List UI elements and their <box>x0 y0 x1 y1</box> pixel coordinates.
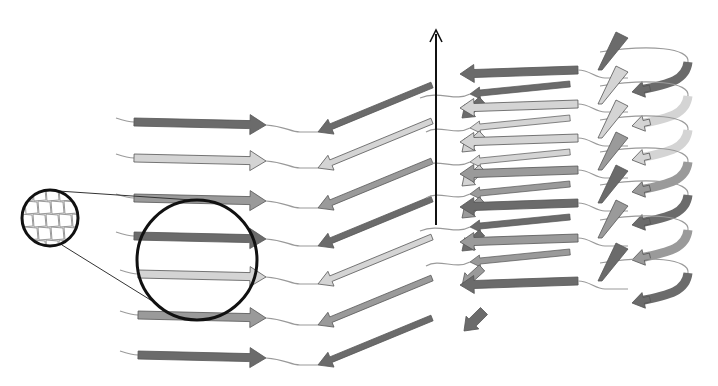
inner-strand-arrow <box>470 81 570 99</box>
strand-row <box>120 315 433 367</box>
inner-strand-arrow <box>470 214 570 232</box>
beta-sheet-illustration <box>0 0 718 386</box>
spike-strand <box>598 200 628 238</box>
spike-strand <box>598 100 628 138</box>
beta-strand-right-arrow <box>134 229 266 249</box>
beta-strand-right-arrow <box>134 115 266 135</box>
magnified-inset <box>20 188 257 320</box>
beta-strand-diagonal-arrow <box>318 315 433 367</box>
spike-strand <box>598 243 628 281</box>
inner-strand-arrow <box>470 149 570 167</box>
inner-strand-arrow <box>470 115 570 133</box>
strand-row <box>120 234 433 286</box>
strand-row <box>116 82 433 134</box>
beta-strand-diagonal-arrow <box>318 275 433 327</box>
right-stacked-layers <box>420 32 688 331</box>
beta-strand-right-arrow <box>138 348 266 368</box>
spike-strand <box>598 66 628 104</box>
beta-strand-left-arrow <box>460 65 578 83</box>
large-magnifier-circle <box>137 200 257 320</box>
short-curved-arrow <box>464 308 488 332</box>
spike-strand <box>598 32 628 70</box>
small-magnifier-circle <box>22 190 78 246</box>
beta-strand-right-arrow <box>134 151 266 171</box>
strand-row <box>116 158 433 210</box>
left-beta-sheet <box>116 82 433 367</box>
spike-strand <box>598 165 628 203</box>
beta-strand-right-arrow <box>138 267 266 287</box>
beta-strand-right-arrow <box>138 308 266 328</box>
inner-strand-arrow <box>470 181 570 199</box>
fibril-diagram <box>0 0 718 386</box>
strand-row <box>120 275 433 327</box>
inner-strand-arrow <box>470 249 570 267</box>
beta-strand-left-arrow <box>460 276 578 294</box>
strand-row <box>116 196 433 248</box>
